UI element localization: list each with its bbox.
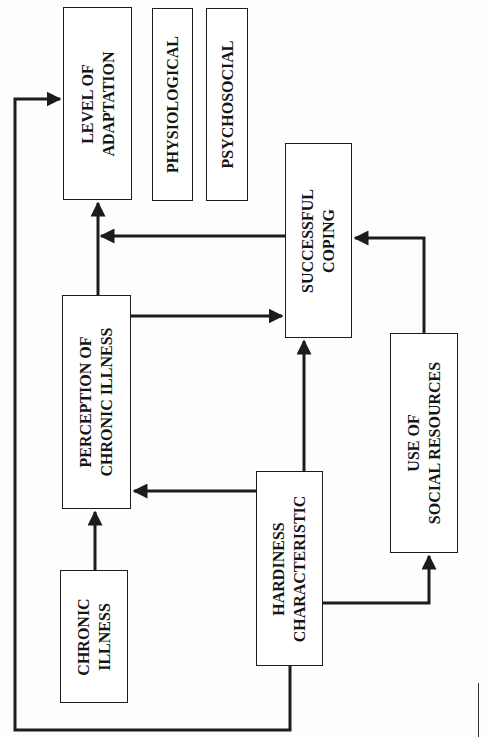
label-line: CHRONIC ILLNESS [97, 328, 118, 477]
node-label: CHRONIC ILLNESS [73, 598, 115, 675]
node-label: PERCEPTION OF CHRONIC ILLNESS [76, 328, 118, 477]
edge-hardiness-to-social-resources [323, 556, 429, 603]
label-line: CHARACTERISTIC [290, 495, 311, 642]
node-perception-of-chronic-illness: PERCEPTION OF CHRONIC ILLNESS [62, 295, 131, 509]
node-hardiness-characteristic: HARDINESS CHARACTERISTIC [256, 471, 323, 666]
label-line: PSYCHOSOCIAL [217, 40, 238, 168]
label-line: HARDINESS [269, 522, 290, 615]
label-line: SOCIAL RESOURCES [424, 362, 445, 524]
node-label: PSYCHOSOCIAL [217, 40, 238, 168]
label-line: COPING [319, 209, 340, 273]
node-label: LEVEL OF ADAPTATION [77, 51, 119, 156]
label-line: LEVEL OF [77, 64, 98, 144]
node-label: USE OF SOCIAL RESOURCES [403, 362, 445, 524]
edge-social-resources-to-coping [355, 238, 424, 333]
label-line: PHYSIOLOGICAL [162, 36, 183, 173]
node-label: SUCCESSFUL COPING [298, 188, 340, 292]
node-successful-coping: SUCCESSFUL COPING [285, 143, 352, 338]
label-line: PERCEPTION OF [76, 336, 97, 467]
page-edge-mark [478, 683, 479, 737]
label-line: ADAPTATION [98, 51, 119, 156]
node-psychosocial: PSYCHOSOCIAL [206, 8, 248, 201]
label-line: ILLNESS [94, 603, 115, 671]
node-chronic-illness: CHRONIC ILLNESS [60, 570, 128, 703]
diagram-canvas: LEVEL OF ADAPTATION PHYSIOLOGICAL PSYCHO… [0, 0, 487, 737]
label-line: CHRONIC [73, 598, 94, 675]
node-label: HARDINESS CHARACTERISTIC [269, 495, 311, 642]
node-level-of-adaptation: LEVEL OF ADAPTATION [63, 7, 132, 200]
node-use-of-social-resources: USE OF SOCIAL RESOURCES [390, 333, 458, 553]
node-label: PHYSIOLOGICAL [162, 36, 183, 173]
label-line: USE OF [403, 414, 424, 471]
label-line: SUCCESSFUL [298, 188, 319, 292]
node-physiological: PHYSIOLOGICAL [152, 8, 193, 201]
